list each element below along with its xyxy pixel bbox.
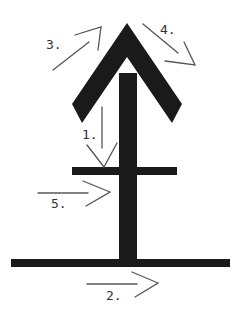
arrow-5-icon <box>38 181 110 206</box>
middle-crossbar <box>72 167 177 175</box>
stroke-label-1: 1. <box>82 128 98 141</box>
glyph <box>11 23 230 267</box>
stroke-label-2: 2. <box>106 289 122 302</box>
bottom-bar <box>11 259 230 267</box>
stroke-label-4: 4. <box>160 23 176 36</box>
stroke-order-diagram <box>0 0 244 316</box>
stroke-label-3: 3. <box>46 38 62 51</box>
arrow-2-icon <box>87 272 158 297</box>
stroke-label-5: 5. <box>51 197 67 210</box>
